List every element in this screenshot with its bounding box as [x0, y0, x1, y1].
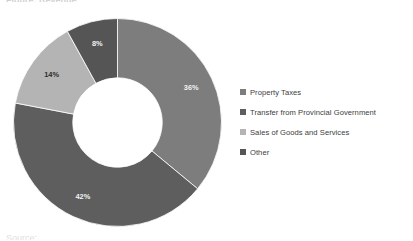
donut-slice[interactable]	[118, 19, 222, 189]
legend-item-label: Other	[250, 148, 269, 157]
legend-swatch-icon	[240, 129, 246, 135]
cropped-caption-text: Source:	[6, 234, 37, 240]
legend-item[interactable]: Other	[240, 142, 410, 162]
chart-legend: Property TaxesTransfer from Provincial G…	[240, 82, 410, 162]
cropped-title-text: Figure: Revenue	[6, 0, 77, 2]
legend-swatch-icon	[240, 149, 246, 155]
legend-item-label: Sales of Goods and Services	[250, 128, 349, 137]
slice-data-label: 42%	[75, 192, 90, 201]
legend-swatch-icon	[240, 109, 246, 115]
legend-item-label: Transfer from Provincial Government	[250, 108, 376, 117]
chart-page: Figure: Revenue 36%42%14%8% Property Tax…	[0, 0, 413, 241]
legend-item-label: Property Taxes	[250, 88, 301, 97]
legend-item[interactable]: Transfer from Provincial Government	[240, 102, 410, 122]
donut-chart: 36%42%14%8%	[13, 13, 222, 232]
slice-data-label: 14%	[44, 70, 59, 79]
slice-data-label: 8%	[92, 39, 103, 48]
legend-item[interactable]: Sales of Goods and Services	[240, 122, 410, 142]
donut-chart-svg: 36%42%14%8%	[13, 13, 222, 232]
slice-data-label: 36%	[184, 83, 199, 92]
donut-slices	[13, 19, 221, 227]
legend-swatch-icon	[240, 89, 246, 95]
legend-item[interactable]: Property Taxes	[240, 82, 410, 102]
